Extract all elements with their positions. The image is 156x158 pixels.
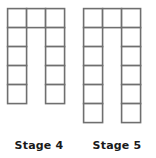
stage-4-figure <box>6 7 66 105</box>
grid-square <box>84 104 103 123</box>
figure-canvas: Stage 4 Stage 5 <box>0 0 156 158</box>
grid-square <box>122 28 141 47</box>
grid-square <box>122 85 141 104</box>
grid-square <box>8 9 27 28</box>
grid-square <box>8 85 27 104</box>
grid-square <box>46 9 65 28</box>
grid-square <box>122 104 141 123</box>
grid-square <box>122 66 141 85</box>
grid-square <box>84 9 103 28</box>
stage-4-grid <box>6 7 66 105</box>
grid-square <box>8 47 27 66</box>
grid-square <box>122 9 141 28</box>
grid-square <box>46 28 65 47</box>
stage-5-label: Stage 5 <box>78 139 156 152</box>
grid-square <box>46 85 65 104</box>
grid-square <box>103 9 122 28</box>
grid-square <box>8 28 27 47</box>
grid-square <box>84 85 103 104</box>
stage-4-label: Stage 4 <box>0 139 78 152</box>
grid-square <box>46 66 65 85</box>
grid-square <box>122 47 141 66</box>
grid-square <box>84 28 103 47</box>
grid-square <box>46 47 65 66</box>
grid-square <box>27 9 46 28</box>
stage-5-grid <box>82 7 142 124</box>
grid-square <box>84 66 103 85</box>
grid-square <box>84 47 103 66</box>
grid-square <box>8 66 27 85</box>
stage-5-figure <box>82 7 142 124</box>
